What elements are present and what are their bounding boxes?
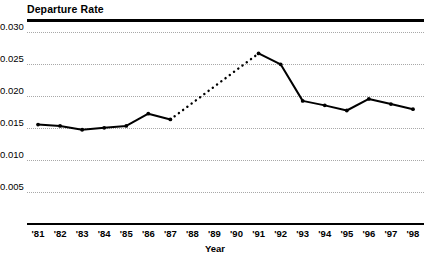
x-tick-label: '92 bbox=[274, 228, 287, 239]
data-point-marker bbox=[102, 126, 106, 130]
data-point-marker bbox=[389, 102, 393, 106]
data-point-marker bbox=[124, 124, 128, 128]
data-point-marker bbox=[279, 62, 283, 66]
x-tick-label: '88 bbox=[186, 228, 199, 239]
data-point-marker bbox=[411, 107, 415, 111]
data-point-marker bbox=[345, 109, 349, 113]
x-tick-label: '82 bbox=[54, 228, 67, 239]
data-point-marker bbox=[257, 52, 261, 56]
data-point-marker bbox=[367, 97, 371, 101]
chart-figure: Departure Rate 0.0300.0250.0200.0150.010… bbox=[0, 0, 430, 260]
x-tick-label: '84 bbox=[98, 228, 111, 239]
data-series-svg bbox=[27, 22, 424, 224]
x-tick-label: '87 bbox=[164, 228, 177, 239]
data-point-marker bbox=[58, 124, 62, 128]
x-axis-line bbox=[27, 223, 424, 225]
x-tick-label: '85 bbox=[120, 228, 133, 239]
x-tick-label: '94 bbox=[318, 228, 331, 239]
data-point-marker bbox=[301, 99, 305, 103]
x-tick-label: '93 bbox=[296, 228, 309, 239]
data-point-marker bbox=[146, 112, 150, 116]
data-point-marker bbox=[36, 123, 40, 127]
x-tick-label: '90 bbox=[230, 228, 243, 239]
data-point-marker bbox=[323, 103, 327, 107]
x-tick-label: '89 bbox=[208, 228, 221, 239]
x-tick-label: '95 bbox=[340, 228, 353, 239]
x-tick-label: '97 bbox=[384, 228, 397, 239]
plot-area bbox=[27, 22, 424, 224]
data-point-marker bbox=[80, 128, 84, 132]
x-tick-label: '98 bbox=[407, 228, 420, 239]
x-axis-title: Year bbox=[0, 243, 430, 254]
x-tick-label: '83 bbox=[76, 228, 89, 239]
x-tick-label: '81 bbox=[32, 228, 45, 239]
series-line-1 bbox=[170, 53, 258, 119]
chart-title: Departure Rate bbox=[27, 3, 104, 15]
x-tick-label: '86 bbox=[142, 228, 155, 239]
x-tick-label: '91 bbox=[252, 228, 265, 239]
series-line-2 bbox=[259, 53, 413, 110]
x-tick-label: '96 bbox=[362, 228, 375, 239]
